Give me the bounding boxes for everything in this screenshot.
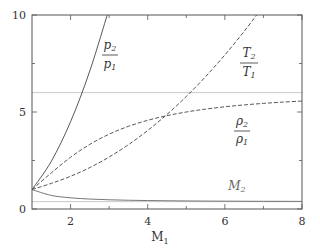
x-axis-label: M1 — [151, 230, 168, 246]
svg-text:ρ1: ρ1 — [235, 132, 248, 147]
ytick-label-0: 0 — [19, 203, 26, 216]
svg-text:T2: T2 — [242, 46, 255, 61]
curve-rho2-over-rho1 — [32, 101, 302, 190]
svg-text:p1: p1 — [104, 57, 117, 72]
plot-frame — [32, 15, 302, 209]
xtick-label-4: 4 — [144, 215, 151, 228]
svg-text:ρ2: ρ2 — [235, 114, 248, 129]
label-density-ratio: ρ2 ρ1 — [234, 114, 250, 147]
curve-p2-over-p1 — [32, 9, 109, 190]
axis-ticks — [32, 15, 302, 209]
ytick-label-10: 10 — [12, 9, 26, 22]
xtick-label-2: 2 — [67, 215, 74, 228]
curve-M2 — [32, 190, 302, 202]
svg-text:T1: T1 — [242, 65, 255, 80]
label-temperature-ratio: T2 T1 — [240, 46, 258, 80]
curves — [32, 6, 302, 201]
shock-relations-chart: 0 5 10 2 4 6 8 M1 p2 p1 T2 T1 ρ2 ρ1 M2 — [0, 0, 320, 249]
label-downstream-mach: M2 — [227, 179, 245, 194]
reference-lines — [32, 93, 302, 202]
svg-text:p2: p2 — [104, 38, 117, 53]
ytick-label-5: 5 — [19, 106, 26, 119]
curve-T2-over-T1 — [32, 6, 263, 190]
xtick-label-8: 8 — [299, 215, 306, 228]
label-pressure-ratio: p2 p1 — [102, 38, 118, 72]
xtick-label-6: 6 — [221, 215, 228, 228]
